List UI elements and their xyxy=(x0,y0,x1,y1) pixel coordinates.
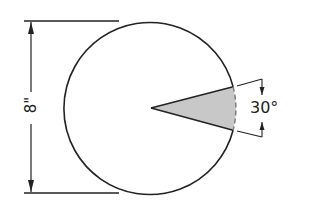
arrow-up-icon xyxy=(28,22,34,34)
arrow-down-icon xyxy=(28,180,34,192)
angle-label: 30° xyxy=(250,98,278,117)
angle-arrow-up-icon xyxy=(260,122,265,130)
shaded-sector xyxy=(151,87,236,131)
angle-extension-upper xyxy=(237,79,262,86)
angle-arrow-down-icon xyxy=(260,87,265,95)
diameter-label: 8" xyxy=(22,92,40,118)
angle-extension-lower xyxy=(237,131,262,137)
